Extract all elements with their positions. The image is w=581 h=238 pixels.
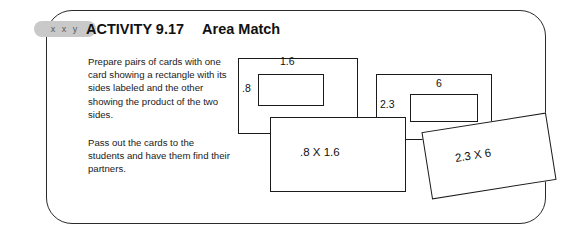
activity-tab-label: x x y [36,23,94,36]
activity-paragraph-1: Prepare pairs of cards with one card sho… [88,55,230,121]
rectangle-card-2-left-label: 2.3 [380,98,395,110]
page-canvas: x x y ACTIVITY 9.17Area Match Prepare pa… [0,0,581,238]
activity-title: Area Match [202,21,280,37]
activity-paragraph-2: Pass out the cards to the students and h… [88,136,230,176]
rectangle-card-1-left-label: .8 [242,82,251,94]
rectangle-card-2-inner-rectangle [410,94,478,122]
rectangle-card-1-top-label: 1.6 [280,55,295,67]
activity-heading: ACTIVITY 9.17Area Match [86,21,280,37]
activity-number: ACTIVITY 9.17 [86,21,184,37]
rectangle-card-2-top-label: 6 [436,77,442,89]
rectangle-card-1-inner-rectangle [258,74,324,106]
figure-group: 1.6 .8 6 2.3 .8 X 1.6 2.3 X 6 [230,44,542,216]
product-card-1-label: .8 X 1.6 [300,146,340,158]
